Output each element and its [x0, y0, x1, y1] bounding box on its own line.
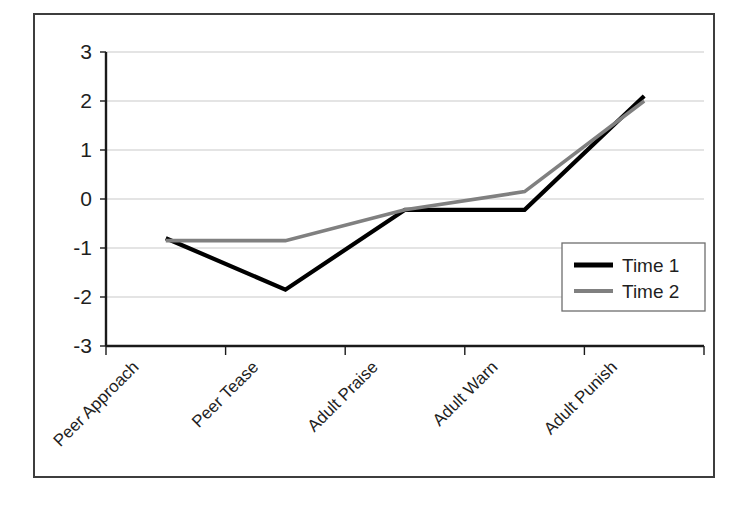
x-tick-label: Peer Approach: [50, 357, 143, 450]
x-tick-label: Adult Warn: [429, 357, 501, 429]
x-tick-label: Adult Praise: [304, 357, 382, 435]
chart-canvas: 3210-1-2-3 Peer ApproachPeer TeaseAdult …: [35, 15, 717, 480]
y-tick-labels-group: 3210-1-2-3: [73, 40, 92, 357]
legend-label-2: Time 2: [622, 281, 679, 302]
chart-legend: Time 1Time 2: [562, 243, 705, 311]
line-chart: 3210-1-2-3 Peer ApproachPeer TeaseAdult …: [35, 15, 717, 480]
x-tick-label: Peer Tease: [188, 357, 262, 431]
y-tick-label: 3: [80, 40, 92, 63]
legend-label-1: Time 1: [622, 255, 679, 276]
chart-figure-border: 3210-1-2-3 Peer ApproachPeer TeaseAdult …: [33, 13, 715, 478]
series-line-2: [166, 101, 644, 241]
y-tick-label: 1: [80, 138, 92, 161]
x-tick-labels-group: Peer ApproachPeer TeaseAdult PraiseAdult…: [50, 357, 621, 450]
y-tick-label: 0: [80, 187, 92, 210]
y-tick-label: 2: [80, 89, 92, 112]
x-tick-label: Adult Punish: [540, 357, 621, 438]
y-tick-label: -1: [73, 236, 92, 259]
y-tick-label: -2: [73, 285, 92, 308]
x-tick-marks-group: [106, 346, 704, 355]
y-tick-label: -3: [73, 334, 92, 357]
